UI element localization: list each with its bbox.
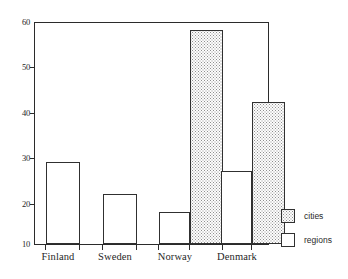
x-axis-label-finland: Finland: [28, 251, 88, 263]
legend: cities regions: [281, 204, 347, 252]
y-axis-label-60: 60: [0, 18, 30, 27]
bar-denmark-regions: [221, 171, 252, 244]
bar-sweden-regions: [103, 194, 137, 244]
x-axis-tick-6: [189, 245, 190, 250]
y-axis-label-text: 60: [8, 18, 30, 27]
x-axis-tick-1: [45, 245, 46, 250]
bar-norway-cities: [190, 30, 223, 244]
x-axis-tick-3: [102, 245, 103, 250]
legend-swatch-regions-icon: [281, 233, 295, 247]
x-axis-tick-4: [136, 245, 137, 250]
x-axis-label-denmark: Denmark: [203, 251, 271, 263]
y-axis-label-text: 40: [8, 109, 30, 118]
y-axis-label-40: 40: [0, 109, 30, 118]
x-axis-tick-5: [158, 245, 159, 250]
y-axis-label-text: 20: [8, 200, 30, 209]
bar-finland-regions: [46, 162, 80, 244]
legend-label-regions: regions: [304, 235, 332, 245]
x-axis-label-norway: Norway: [144, 251, 206, 263]
legend-label-cities: cities: [304, 211, 323, 221]
y-axis-label-50: 50: [0, 63, 30, 72]
bar-norway-regions: [159, 212, 190, 244]
x-axis-tick-2: [79, 245, 80, 250]
y-axis-label-text: 30: [8, 154, 30, 163]
x-axis-tick-7: [222, 245, 223, 250]
plot-area: [34, 22, 269, 245]
y-axis-label-text: 10: [8, 240, 30, 249]
x-axis-tick-8: [251, 245, 252, 250]
legend-item-cities: cities: [281, 204, 347, 228]
bar-chart: 60 50 40 30 20 10 Finland Sweden: [0, 0, 348, 279]
y-axis-label-30: 30: [0, 154, 30, 163]
y-axis-label-text: 50: [8, 63, 30, 72]
y-axis-label-10: 10: [0, 240, 30, 249]
y-axis-label-20: 20: [0, 200, 30, 209]
legend-item-regions: regions: [281, 228, 347, 252]
x-axis-label-sweden: Sweden: [85, 251, 145, 263]
legend-swatch-cities-icon: [281, 209, 295, 223]
